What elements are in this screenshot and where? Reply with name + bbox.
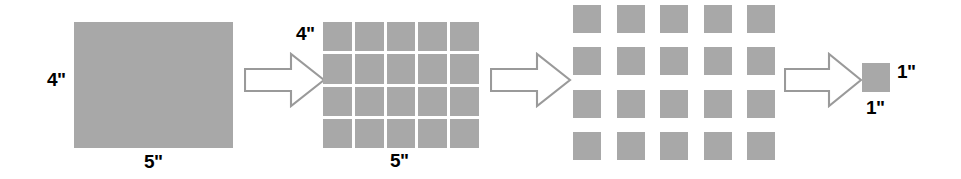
grid-cell (573, 47, 601, 75)
grid-cell (387, 54, 416, 83)
grid-cell (387, 22, 416, 51)
grid-cell (660, 132, 688, 160)
tight-grid-width-label: 5" (390, 151, 409, 170)
grid-cell (355, 119, 384, 148)
arrow-1-right-icon (244, 51, 326, 109)
diagram-canvas: 4" 5" 4" 5" (0, 0, 961, 179)
grid-cell (450, 54, 479, 83)
grid-cell (747, 90, 775, 118)
grid-cell (617, 132, 645, 160)
grid-cell (573, 132, 601, 160)
grid-cell (450, 87, 479, 116)
unit-square-height-label: 1" (897, 62, 916, 81)
grid-cell (747, 132, 775, 160)
grid-cell (704, 132, 732, 160)
grid-cell (323, 22, 352, 51)
whole-rectangle-height-label: 4" (47, 70, 66, 89)
grid-cell (323, 119, 352, 148)
unit-square-shape (862, 63, 890, 92)
tight-grid-shape (323, 22, 479, 148)
grid-cell (660, 90, 688, 118)
grid-cell (573, 5, 601, 33)
whole-rectangle-width-label: 5" (144, 152, 163, 171)
arrow-2-right-icon (490, 51, 572, 109)
grid-cell (387, 87, 416, 116)
grid-cell (450, 22, 479, 51)
arrow-3-right-icon (784, 51, 863, 109)
grid-cell (355, 87, 384, 116)
grid-cell (418, 119, 447, 148)
grid-cell (704, 5, 732, 33)
grid-cell (355, 54, 384, 83)
grid-cell (704, 47, 732, 75)
grid-cell (660, 47, 688, 75)
grid-cell (747, 5, 775, 33)
grid-cell (418, 87, 447, 116)
grid-cell (387, 119, 416, 148)
unit-square-width-label: 1" (866, 98, 885, 117)
grid-cell (660, 5, 688, 33)
spaced-grid-shape (573, 5, 775, 160)
tight-grid-height-label: 4" (296, 24, 315, 43)
grid-cell (355, 22, 384, 51)
grid-cell (450, 119, 479, 148)
grid-cell (747, 47, 775, 75)
grid-cell (418, 22, 447, 51)
grid-cell (323, 54, 352, 83)
grid-cell (573, 90, 601, 118)
whole-rectangle-shape (74, 22, 233, 148)
grid-cell (617, 90, 645, 118)
grid-cell (323, 87, 352, 116)
grid-cell (617, 47, 645, 75)
grid-cell (617, 5, 645, 33)
grid-cell (418, 54, 447, 83)
grid-cell (704, 90, 732, 118)
